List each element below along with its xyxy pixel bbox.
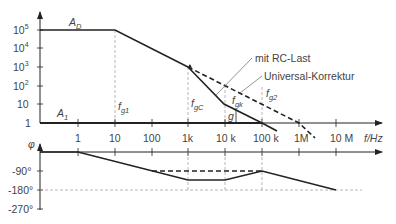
- phase-tick-label-180: -180°: [8, 184, 33, 196]
- label-fgk: fgk: [232, 94, 244, 109]
- x-tick-label-1M: 1M: [294, 132, 309, 144]
- x-axis-unit-label: f/Hz: [364, 132, 383, 144]
- y-tick-label-1e5: 105: [13, 23, 29, 36]
- curve-open-loop-AD: [40, 30, 188, 67]
- label-fgC: fgC: [191, 97, 204, 112]
- y-tick-label-10: 10: [17, 98, 29, 110]
- curve-rc-load-extension: [262, 123, 277, 131]
- annotation-universal-correction: Universal-Korrektur: [264, 70, 355, 82]
- y-tick-label-1e4: 104: [13, 41, 29, 54]
- phase-tick-label-270: -270°: [8, 203, 33, 215]
- bode-plot-canvas: 105 104 103 102 10 1 1 10 100 1k 10 k 10…: [0, 0, 396, 224]
- vertical-guides: [115, 30, 262, 123]
- x-tick-label-10k: 10 k: [216, 132, 237, 144]
- bode-diagram: 105 104 103 102 10 1 1 10 100 1k 10 k 10…: [0, 0, 396, 224]
- label-fg2: fg2: [266, 87, 278, 102]
- y-tick-label-1e2: 102: [13, 79, 29, 92]
- x-tick-label-1k: 1k: [182, 132, 194, 144]
- annotation-rc-load: mit RC-Last: [255, 52, 311, 64]
- x-tick-label-100k: 100 k: [253, 132, 279, 144]
- x-tick-label-1: 1: [75, 132, 81, 144]
- phase-tick-label-90: -90°: [12, 165, 31, 177]
- y-tick-label-1e3: 103: [13, 60, 29, 73]
- label-fg1: fg1: [118, 100, 129, 115]
- label-AD: AD: [68, 16, 82, 31]
- y-tick-label-1: 1: [25, 117, 31, 129]
- x-tick-label-10M: 10 M: [330, 132, 353, 144]
- x-tick-label-100: 100: [143, 132, 161, 144]
- label-g: g: [228, 110, 234, 122]
- x-tick-label-10: 10: [109, 132, 121, 144]
- phase-axis-label: φ: [28, 138, 35, 150]
- label-A1: A1: [56, 107, 68, 122]
- leader-universal: [240, 76, 262, 93]
